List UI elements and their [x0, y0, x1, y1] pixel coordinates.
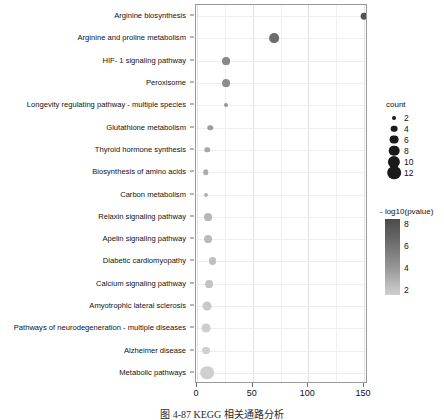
data-point [200, 366, 214, 380]
gridline-horizontal [196, 128, 366, 129]
count-legend-item: 4 [386, 123, 444, 134]
count-legend-dot [389, 145, 400, 156]
count-legend-item: 12 [386, 167, 444, 178]
y-axis-tick [190, 327, 194, 328]
y-axis-label: Relaxin signaling pathway [98, 211, 186, 220]
gridline-horizontal [196, 239, 366, 240]
gridline-horizontal [196, 373, 366, 374]
data-point [361, 13, 367, 20]
count-legend-label: 6 [404, 135, 409, 145]
y-axis-label: Glutathione metabolism [106, 122, 186, 131]
colorbar-wrapper: 8642 [380, 219, 440, 295]
data-point [203, 169, 208, 174]
gridline-horizontal [196, 16, 366, 17]
y-axis-label: Metabolic pathways [119, 367, 186, 376]
kegg-pathway-dotplot: Arginine biosynthesisArginine and prolin… [0, 0, 444, 420]
y-axis-label: Alzheimer disease [124, 345, 186, 354]
y-axis-tick [190, 349, 194, 350]
gridline-horizontal [196, 261, 366, 262]
data-point [204, 213, 212, 221]
y-axis-tick [190, 171, 194, 172]
x-axis-tick-label: 0 [193, 388, 198, 398]
y-axis-label: Longevity regulating pathway - multiple … [27, 100, 186, 109]
y-axis-tick [190, 304, 194, 305]
y-axis-label: Thyroid hormone synthesis [95, 144, 186, 153]
count-legend-item: 6 [386, 134, 444, 145]
y-axis-labels: Arginine biosynthesisArginine and prolin… [0, 0, 192, 385]
x-axis-tick-label: 150 [355, 388, 370, 398]
colorbar-label: 4 [404, 263, 409, 273]
x-axis: 050100150 [195, 383, 367, 405]
data-point [203, 302, 212, 311]
gridline-horizontal [196, 172, 366, 173]
y-axis-label: Arginine biosynthesis [114, 11, 186, 20]
y-axis-label: Pathways of neurodegeneration - multiple… [14, 323, 186, 332]
count-legend-dot [391, 125, 398, 132]
count-legend-dot [392, 116, 396, 120]
gridline-horizontal [196, 105, 366, 106]
y-axis-tick [190, 215, 194, 216]
data-point [204, 235, 212, 243]
colorbar-label: 8 [404, 219, 409, 229]
x-axis-tick [363, 383, 364, 387]
data-point [222, 57, 230, 65]
y-axis-tick [190, 59, 194, 60]
y-axis-tick [190, 104, 194, 105]
y-axis-label: Biosynthesis of amino acids [92, 167, 186, 176]
count-size-legend: count 24681012 [386, 100, 444, 178]
count-legend-item: 8 [386, 145, 444, 156]
colorbar-label: 6 [404, 241, 409, 251]
y-axis-tick [190, 37, 194, 38]
x-axis-tick-label: 100 [300, 388, 315, 398]
y-axis-label: Apelin signaling pathway [102, 234, 186, 243]
count-legend-title: count [386, 100, 444, 109]
y-axis-label: Carbon metabolism [120, 189, 186, 198]
data-point [222, 79, 230, 87]
y-axis-tick [190, 126, 194, 127]
data-point [204, 193, 208, 197]
data-point [224, 103, 228, 107]
gridline-horizontal [196, 195, 366, 196]
pvalue-legend-title: - log10(pvalue) [380, 207, 444, 216]
data-point [269, 34, 279, 44]
gridline-horizontal [196, 306, 366, 307]
count-legend-dot [387, 166, 401, 180]
gridline-horizontal [196, 328, 366, 329]
data-point [201, 324, 210, 333]
y-axis-tick [190, 148, 194, 149]
y-axis-label: Peroxisome [146, 78, 186, 87]
x-axis-tick [252, 383, 253, 387]
gridline-horizontal [196, 150, 366, 151]
count-legend-dot [390, 135, 399, 144]
count-legend-label: 10 [404, 157, 413, 167]
y-axis-label: Amyotrophic lateral sclerosis [89, 300, 186, 309]
colorbar-gradient [385, 219, 400, 295]
gridline-horizontal [196, 217, 366, 218]
y-axis-label: Arginine and proline metabolism [78, 33, 186, 42]
count-legend-label: 2 [404, 113, 409, 123]
count-legend-label: 12 [404, 168, 413, 178]
x-axis-tick [196, 383, 197, 387]
x-axis-tick-label: 50 [247, 388, 257, 398]
y-axis-tick [190, 15, 194, 16]
colorbar-label: 2 [404, 285, 409, 295]
count-legend-label: 4 [404, 124, 409, 134]
count-legend-items: 24681012 [386, 112, 444, 178]
y-axis-tick [190, 238, 194, 239]
y-axis-tick [190, 371, 194, 372]
count-legend-item: 2 [386, 112, 444, 123]
y-axis-tick [190, 82, 194, 83]
data-point [205, 280, 213, 288]
plot-panel [195, 4, 367, 383]
x-axis-tick [307, 383, 308, 387]
data-point [209, 257, 217, 265]
data-point [202, 347, 210, 355]
gridline-horizontal [196, 284, 366, 285]
figure-caption: 图 4-87 KEGG 相关通路分析 [0, 406, 444, 420]
data-point [204, 147, 209, 152]
gridline-horizontal [196, 351, 366, 352]
gridline-horizontal [196, 38, 366, 39]
data-point [208, 125, 213, 130]
y-axis-label: Calcium signaling pathway [96, 278, 186, 287]
y-axis-label: HIF- 1 signaling pathway [102, 55, 186, 64]
